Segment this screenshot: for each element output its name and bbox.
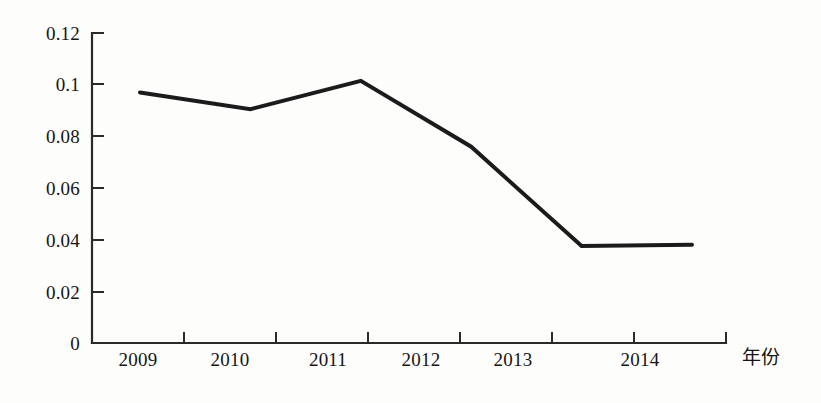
ytick-label-0: 0.12 (8, 24, 80, 43)
xtick-label-2009: 2009 (98, 350, 178, 369)
xtick-label-2013: 2013 (473, 350, 553, 369)
ytick-label-5: 0.02 (8, 283, 80, 302)
y-axis-ticks (92, 33, 103, 292)
xtick-label-2012: 2012 (381, 350, 461, 369)
xtick-label-2014: 2014 (600, 350, 680, 369)
ytick-label-1: 0.1 (8, 75, 80, 94)
x-axis-ticks (184, 333, 726, 343)
data-series-line (140, 81, 692, 246)
line-chart: 0.12 0.1 0.08 0.06 0.04 0.02 0 2009 2010… (0, 0, 821, 403)
x-axis-title: 年份 (742, 348, 780, 367)
chart-canvas (0, 0, 821, 403)
xtick-label-2010: 2010 (190, 350, 270, 369)
xtick-label-2011: 2011 (288, 350, 368, 369)
ytick-label-4: 0.04 (8, 231, 80, 250)
ytick-label-3: 0.06 (8, 179, 80, 198)
ytick-label-6: 0 (8, 334, 80, 353)
ytick-label-2: 0.08 (8, 127, 80, 146)
